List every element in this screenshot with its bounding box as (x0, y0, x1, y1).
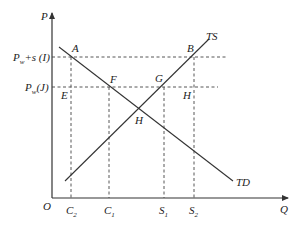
supply-curve-ts (65, 39, 209, 181)
tick-label-c1: C1 (104, 204, 115, 219)
supply-demand-tariff-diagram: P Q O Pw+s (I) Pw(J) TS TD A B E F G H H… (0, 0, 299, 227)
price-label-world: Pw(J) (24, 81, 49, 96)
origin-label: O (43, 200, 51, 212)
y-axis-label: P (40, 10, 48, 22)
point-g-label: G (155, 72, 163, 84)
tick-label-s2: S2 (189, 204, 199, 219)
point-h-right-label: H (182, 89, 192, 101)
point-h-intersection-label: H (134, 114, 144, 126)
x-axis-label: Q (280, 203, 288, 215)
point-f-label: F (109, 73, 117, 85)
tick-label-c2: C2 (66, 204, 77, 219)
point-e-label: E (60, 89, 68, 101)
point-b-label: B (187, 42, 194, 54)
tick-label-s1: S1 (159, 204, 168, 219)
price-label-world-plus-subsidy: Pw+s (I) (12, 51, 50, 66)
point-a-label: A (71, 42, 79, 54)
demand-curve-label: TD (236, 176, 250, 188)
supply-curve-label: TS (206, 30, 218, 42)
